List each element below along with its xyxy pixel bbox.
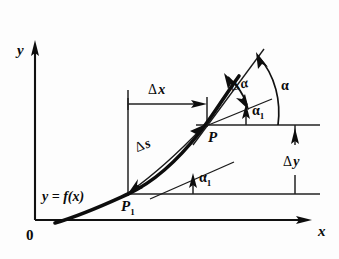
point-p1-letter: P (121, 198, 130, 214)
alpha1-lower-letter: α (199, 170, 207, 185)
diagram-svg (0, 0, 339, 259)
y-axis-label: y (17, 43, 24, 58)
delta-x-measure-group (128, 98, 207, 110)
alpha1-upper-mark-group (242, 104, 250, 125)
function-label: y = f(x) (42, 190, 84, 204)
delta-s-arrowhead-lower (127, 179, 143, 195)
x-axis-label: x (318, 224, 326, 239)
delta-y-label: Δ y (283, 155, 299, 169)
delta-x-variable: x (158, 82, 165, 97)
delta-x-symbol: Δ (148, 82, 157, 97)
tangent-line-at-p (193, 49, 264, 145)
alpha1-upper-label: α1 (252, 104, 264, 121)
alpha1-lower-mark-group (189, 173, 197, 194)
point-p-label: P (208, 130, 217, 145)
alpha-label: α (281, 79, 289, 93)
alpha1-upper-subscript: 1 (260, 111, 265, 121)
point-p1-label: P1 (121, 199, 135, 217)
alpha1-upper-letter: α (252, 103, 260, 118)
alpha1-lower-label: α1 (199, 171, 211, 188)
construction-lines-group (128, 90, 320, 196)
tangent-at-p-group (193, 49, 264, 145)
figure-container: y x 0 y = f(x) P P1 Δ x Δ y Δ s Δ α α α1… (0, 0, 339, 259)
origin-label: 0 (26, 228, 34, 243)
delta-y-variable: y (293, 154, 299, 169)
point-p1-subscript: 1 (130, 207, 135, 217)
delta-y-symbol: Δ (283, 154, 292, 169)
delta-alpha-arrowhead-lower (236, 94, 249, 110)
alpha1-lower-subscript: 1 (207, 178, 212, 188)
delta-x-label: Δ x (148, 83, 165, 97)
